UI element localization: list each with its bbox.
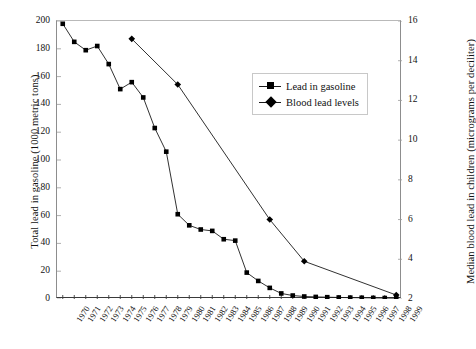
- legend-label: Lead in gasoline: [286, 81, 355, 92]
- y-axis-left-tick-label: 180: [36, 43, 50, 53]
- y-axis-right-tick-label: 6: [408, 214, 413, 224]
- y-axis-left-tick-label: 80: [41, 182, 51, 192]
- y-axis-left-tick-label: 100: [36, 154, 50, 164]
- y-axis-left-tick-label: 120: [36, 126, 50, 136]
- y-axis-right-tick-label: 16: [408, 15, 418, 25]
- x-axis-ticks: 1970197119721973197419751976197719781979…: [56, 302, 401, 349]
- y-axis-left-tick-label: 140: [36, 98, 50, 108]
- y-axis-left-tick-label: 60: [41, 210, 51, 220]
- y-axis-right-ticks: 246810121416: [408, 20, 438, 298]
- y-axis-right-tick-label: 2: [408, 293, 413, 303]
- series-canvas: [57, 21, 402, 299]
- y-axis-right-tick-label: 4: [408, 253, 413, 263]
- y-axis-left-tick-label: 20: [41, 265, 51, 275]
- y-axis-right-title: Median blood lead in children (microgram…: [465, 32, 476, 292]
- y-axis-left-ticks: 020406080100120140160180200: [0, 20, 50, 298]
- y-axis-right-tick-label: 8: [408, 174, 413, 184]
- legend-item-blood-lead-levels: Blood lead levels: [259, 94, 359, 110]
- y-axis-right-tick-label: 14: [408, 55, 418, 65]
- legend-marker-diamond-icon: [259, 97, 281, 107]
- y-axis-right-tick-label: 12: [408, 94, 418, 104]
- y-axis-right-tick-label: 10: [408, 134, 418, 144]
- y-axis-left-tick-label: 40: [41, 237, 51, 247]
- y-axis-left-tick-label: 160: [36, 71, 50, 81]
- legend-marker-square-icon: [259, 81, 281, 91]
- legend-label: Blood lead levels: [286, 97, 359, 108]
- y-axis-left-tick-label: 200: [36, 15, 50, 25]
- chart-legend: Lead in gasoline Blood lead levels: [252, 73, 368, 115]
- y-axis-left-tick-label: 0: [45, 293, 50, 303]
- plot-area: [56, 20, 401, 298]
- legend-item-lead-in-gasoline: Lead in gasoline: [259, 78, 359, 94]
